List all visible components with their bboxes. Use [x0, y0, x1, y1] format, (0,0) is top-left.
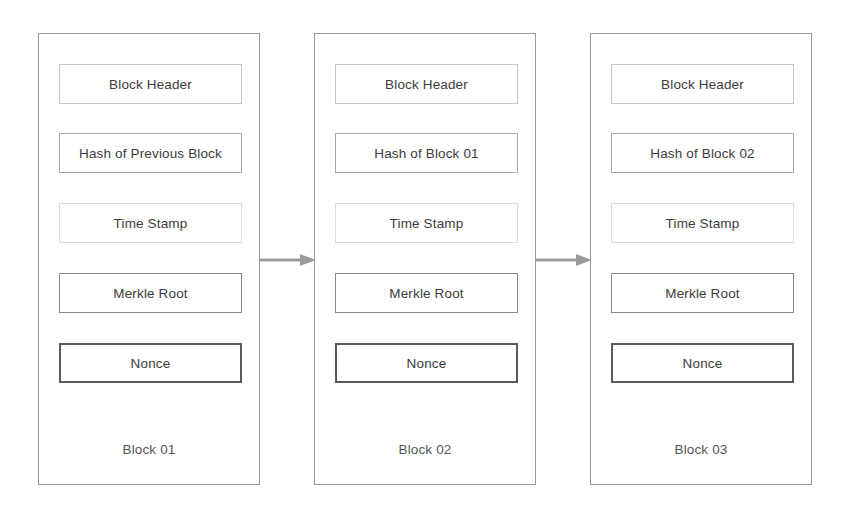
block-02-field-time-stamp: Time Stamp [335, 203, 518, 243]
block-01-field-nonce: Nonce [59, 343, 242, 383]
block-01-field-hash-of-previous-block: Hash of Previous Block [59, 133, 242, 173]
block-01: Block Header Hash of Previous Block Time… [38, 33, 260, 485]
block-02-label: Block 02 [315, 442, 535, 457]
block-03-field-merkle-root: Merkle Root [611, 273, 794, 313]
arrow-right-icon [260, 252, 316, 268]
block-02: Block Header Hash of Block 01 Time Stamp… [314, 33, 536, 485]
block-02-field-nonce: Nonce [335, 343, 518, 383]
block-02-field-hash-of-block-01: Hash of Block 01 [335, 133, 518, 173]
block-03: Block Header Hash of Block 02 Time Stamp… [590, 33, 812, 485]
block-01-field-merkle-root: Merkle Root [59, 273, 242, 313]
block-01-field-time-stamp: Time Stamp [59, 203, 242, 243]
block-03-label: Block 03 [591, 442, 811, 457]
block-02-field-block-header: Block Header [335, 64, 518, 104]
block-01-field-block-header: Block Header [59, 64, 242, 104]
block-01-label: Block 01 [39, 442, 259, 457]
arrow-right-icon [536, 252, 592, 268]
block-02-field-merkle-root: Merkle Root [335, 273, 518, 313]
block-03-field-block-header: Block Header [611, 64, 794, 104]
block-03-field-time-stamp: Time Stamp [611, 203, 794, 243]
arrow-block02-to-block03 [536, 252, 592, 268]
block-03-field-nonce: Nonce [611, 343, 794, 383]
diagram-canvas: Block Header Hash of Previous Block Time… [0, 0, 842, 510]
block-03-field-hash-of-block-02: Hash of Block 02 [611, 133, 794, 173]
arrow-block01-to-block02 [260, 252, 316, 268]
